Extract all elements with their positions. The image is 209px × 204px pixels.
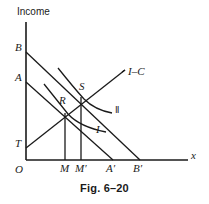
point-label-r: R [59, 95, 66, 106]
y-axis-title: Income [17, 6, 50, 17]
income-consumption-line [26, 70, 125, 148]
point-label-a: A [15, 72, 22, 83]
point-label-aprime: A′ [106, 163, 115, 174]
economics-diagram [0, 0, 209, 204]
curve-label-i: I [96, 124, 100, 135]
point-label-s: S [79, 81, 85, 92]
budget-line-b-bprime [26, 52, 140, 160]
point-label-bprime: B′ [133, 163, 142, 174]
point-label-b: B [15, 42, 22, 53]
curve-label-ic: I–C [128, 66, 145, 77]
point-label-o: O [15, 164, 23, 175]
point-label-t: T [15, 138, 21, 149]
curve-label-ii: Ⅱ [115, 106, 119, 115]
figure-container: Income x B A T O S R M M′ A′ B′ I–C I Ⅱ … [0, 0, 209, 204]
x-axis-title: x [191, 150, 196, 161]
point-label-m: M [60, 163, 69, 174]
figure-caption: Fig. 6–20 [0, 182, 209, 194]
point-label-mprime: M′ [75, 163, 87, 174]
